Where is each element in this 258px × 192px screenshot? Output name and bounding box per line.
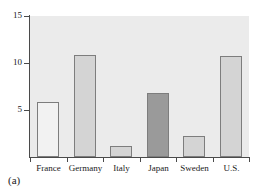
bar-france: [37, 102, 59, 157]
x-tick-mark: [140, 158, 141, 162]
bar-chart-figure: 51015 FranceGermanyItalyJapanSwedenU.S. …: [0, 0, 258, 192]
y-tick-mark: [24, 16, 30, 17]
x-tick-label-germany: Germany: [67, 163, 104, 173]
x-tick-mark: [176, 158, 177, 162]
x-tick-mark: [30, 158, 31, 162]
y-tick-label: 5: [18, 105, 23, 114]
bar-u-s: [220, 56, 242, 157]
y-tick-mark: [24, 110, 30, 111]
x-tick-mark: [67, 158, 68, 162]
y-tick-label: 15: [13, 11, 22, 20]
y-tick-mark: [24, 63, 30, 64]
x-tick-label-italy: Italy: [103, 163, 140, 173]
x-tick-label-sweden: Sweden: [176, 163, 213, 173]
bar-japan: [147, 93, 169, 157]
x-tick-mark: [103, 158, 104, 162]
x-tick-mark: [249, 158, 250, 162]
bar-italy: [110, 146, 132, 157]
x-tick-label-u-s: U.S.: [213, 163, 250, 173]
x-tick-mark: [213, 158, 214, 162]
y-axis-line: [29, 15, 30, 158]
x-tick-label-france: France: [30, 163, 67, 173]
plot-area: [30, 16, 249, 157]
bar-sweden: [183, 136, 205, 157]
y-tick-label: 10: [13, 58, 22, 67]
panel-caption: (a): [8, 174, 20, 186]
bar-germany: [74, 55, 96, 157]
x-tick-label-japan: Japan: [140, 163, 177, 173]
